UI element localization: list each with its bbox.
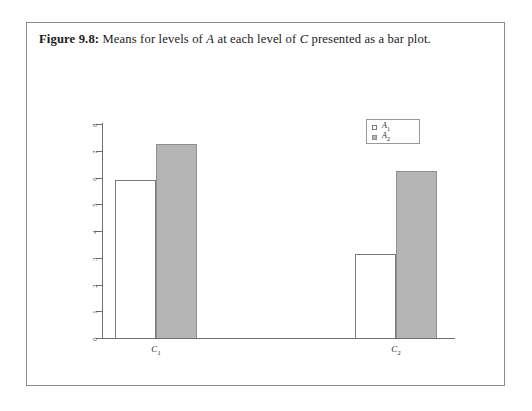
y-tick-label-3: 3 — [91, 257, 98, 271]
y-tick-label-0: 0 — [91, 338, 98, 352]
x-axis-line — [102, 338, 455, 339]
category-label-C2: C2 — [376, 344, 416, 356]
y-tick-label-1: 1 — [91, 311, 98, 325]
y-tick-label-7: 7 — [91, 150, 98, 164]
legend-label-a2: A2 — [382, 131, 390, 144]
y-tick-label-6: 6 — [91, 177, 98, 191]
y-axis-line — [102, 123, 103, 339]
y-tick-label-2: 2 — [91, 284, 98, 298]
legend-swatch-a1-icon — [372, 125, 377, 130]
bar-A2-C2 — [396, 171, 437, 338]
legend-item-a2: A2 — [372, 133, 419, 142]
bar-A1-C2 — [355, 254, 396, 338]
bar-A2-C1 — [156, 144, 197, 338]
bar-A1-C1 — [115, 180, 156, 338]
figure-container: Figure 9.8: Means for levels of A at eac… — [26, 22, 505, 386]
legend-swatch-a2-icon — [372, 135, 377, 140]
legend-item-a1: A1 — [372, 123, 419, 132]
chart-legend: A1 A2 — [366, 119, 420, 144]
y-tick-label-5: 5 — [91, 204, 98, 218]
category-label-C1: C1 — [136, 344, 176, 356]
bar-chart: 012345678 C1C2 A1 A2 — [27, 23, 506, 387]
y-tick-label-8: 8 — [91, 124, 98, 138]
y-tick-label-4: 4 — [91, 231, 98, 245]
